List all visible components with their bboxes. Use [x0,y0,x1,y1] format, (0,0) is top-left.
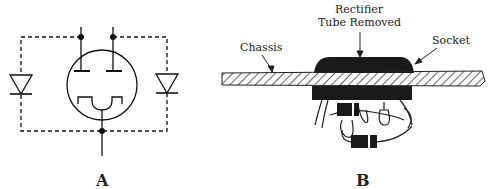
panel-a-label: A [95,171,109,189]
panel-b-label: B [356,171,370,189]
diode-left-icon [10,75,32,94]
diode-right-icon [156,74,178,93]
chassis-callout: Chassis [240,41,283,54]
chassis-plate [222,71,485,86]
tube-callout-line2: Tube Removed [318,16,401,29]
socket-callout: Socket [432,34,470,47]
tube-callout-line1: Rectifier [335,3,384,16]
diode-component-icon [351,135,377,148]
socket-body [312,86,412,100]
diode-component-icon [337,103,359,116]
socket-top [314,57,414,73]
filament [78,97,122,110]
panel-a-schematic [10,27,178,156]
rectifier-diagram: A [0,0,489,189]
